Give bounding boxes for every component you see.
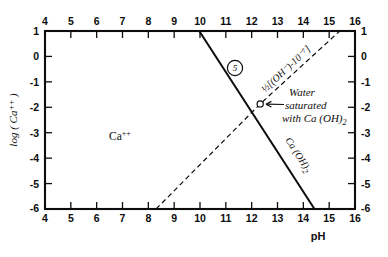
right-tick-label: -4	[361, 152, 370, 164]
right-tick-label: -2	[361, 101, 370, 113]
water-saturated-annotation: Water saturated with Ca (OH)2	[282, 86, 347, 127]
y-tick-label: -6	[30, 202, 39, 214]
right-tick-label: 1	[361, 25, 367, 37]
top-axis-tick-labels: 4 5 6 7 8 9 10 11 12 13 14 15 16	[42, 15, 361, 27]
y-axis-title-suffix: )	[7, 93, 20, 100]
x-tick-label: 10	[194, 212, 206, 224]
curve-marker-label: 5	[233, 63, 238, 73]
x-tick-label: 4	[42, 212, 48, 224]
bottom-axis-tick-labels: 4 5 6 7 8 9 10 11 12 13 14 15 16	[42, 212, 361, 224]
x-axis-title: pH	[311, 230, 326, 242]
intersection-marker	[257, 101, 263, 107]
right-tick-label: -3	[361, 127, 370, 139]
right-tick-label: -1	[361, 76, 370, 88]
x-tick-label: 16	[349, 212, 361, 224]
y-tick-label: 0	[33, 50, 39, 62]
solid-curve-label: Ca (OH)2	[281, 135, 314, 175]
y-tick-label: -1	[30, 76, 39, 88]
right-axis-tick-labels: 1 0 -1 -2 -3 -4 -5 -6	[361, 25, 370, 214]
ca-ion-superscript: ++	[122, 129, 132, 138]
x-tick-label: 11	[220, 212, 231, 224]
y-tick-label: -4	[30, 152, 39, 164]
ca-ion-region-label: Ca++	[109, 129, 131, 142]
y-tick-label: -3	[30, 127, 39, 139]
x-tick-label: 7	[120, 212, 126, 224]
top-tick-label: 14	[297, 15, 309, 27]
x-tick-label: 12	[246, 212, 258, 224]
top-tick-label: 5	[68, 15, 74, 27]
ca-oh2-solubility-diagram: 4 5 6 7 8 9 10 11 12 13 14 15 16	[0, 0, 388, 257]
x-tick-label: 8	[145, 212, 151, 224]
top-tick-label: 15	[323, 15, 335, 27]
x-tick-label: 5	[68, 212, 74, 224]
top-tick-label: 4	[42, 15, 48, 27]
x-tick-label: 9	[171, 212, 177, 224]
callout-arrow	[266, 101, 284, 107]
annotation-line-3-text: with Ca (OH)	[282, 112, 343, 125]
top-tick-label: 16	[349, 15, 361, 27]
annotation-line-3-subscript: 2	[343, 118, 347, 127]
left-axis-tick-labels: 1 0 -1 -2 -3 -4 -5 -6	[30, 25, 40, 214]
top-tick-label: 12	[246, 15, 258, 27]
curve-marker-5: 5	[227, 60, 242, 75]
top-tick-label: 8	[145, 15, 151, 27]
right-tick-label: 0	[361, 50, 367, 62]
y-tick-label: -5	[30, 178, 39, 190]
svg-text:log ( Ca++ ): log ( Ca++ )	[7, 93, 21, 147]
top-tick-label: 11	[220, 15, 231, 27]
annotation-line-2: saturated	[285, 99, 327, 111]
plot-canvas: 4 5 6 7 8 9 10 11 12 13 14 15 16	[0, 0, 388, 257]
x-tick-label: 6	[94, 212, 100, 224]
x-tick-label: 13	[272, 212, 284, 224]
svg-text:Ca (OH)2: Ca (OH)2	[281, 135, 314, 175]
top-tick-label: 6	[94, 15, 100, 27]
right-tick-label: -5	[361, 178, 370, 190]
y-tick-label: -2	[30, 101, 39, 113]
top-tick-label: 9	[171, 15, 177, 27]
x-tick-label: 14	[297, 212, 309, 224]
x-tick-label: 15	[323, 212, 335, 224]
y-tick-label: 1	[33, 25, 39, 37]
top-tick-label: 7	[120, 15, 126, 27]
top-tick-label: 10	[194, 15, 206, 27]
annotation-line-1: Water	[289, 86, 316, 98]
y-axis-title-superscript: ++	[7, 100, 16, 111]
top-tick-label: 13	[272, 15, 284, 27]
right-tick-label: -6	[361, 202, 370, 214]
annotation-line-3: with Ca (OH)2	[282, 112, 347, 127]
y-axis-title-prefix: log ( Ca	[7, 110, 20, 147]
y-axis-title: log ( Ca++ )	[7, 93, 21, 147]
ca-ion-text: Ca	[109, 130, 122, 142]
